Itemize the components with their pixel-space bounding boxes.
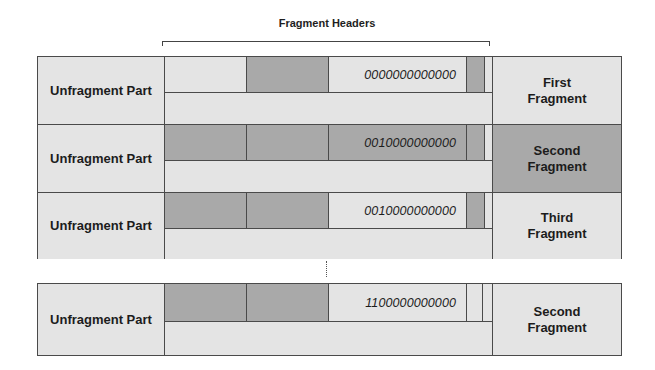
fragment-payload-strip [164, 161, 492, 192]
fragment-offset-field: 0010000000000 [328, 125, 466, 161]
unfragment-part-cell: Unfragment Part [38, 193, 164, 259]
fragment-row-second: Unfragment Part 0010000000000 Second Fra… [38, 124, 621, 192]
header-segment-4 [466, 193, 484, 229]
header-segment-1 [164, 193, 246, 229]
header-segment-2 [246, 193, 328, 229]
header-segment-5 [484, 193, 492, 229]
unfragment-part-cell: Unfragment Part [38, 284, 164, 355]
header-segment-2 [246, 284, 328, 322]
header-segment-1 [164, 57, 246, 93]
fragment-payload-strip [164, 93, 492, 124]
header-segment-5 [484, 125, 492, 161]
continuation-dots [326, 261, 327, 277]
header-segment-5 [484, 57, 492, 93]
fragment-headers-title: Fragment Headers [163, 17, 491, 29]
fragment-headers-bracket [162, 41, 490, 46]
fragment-row-third: Unfragment Part 0010000000000 Third Frag… [38, 192, 621, 259]
header-segment-2 [246, 125, 328, 161]
fragment-row-last: Unfragment Part 1100000000000 Second Fra… [37, 283, 622, 356]
fragment-payload-strip [164, 229, 492, 259]
fragment-offset-field: 1100000000000 [328, 284, 466, 322]
unfragment-part-cell: Unfragment Part [38, 125, 164, 192]
fragment-label-cell: Third Fragment [492, 193, 621, 259]
header-segment-1 [164, 125, 246, 161]
header-segment-4 [466, 57, 484, 93]
fragment-label-cell: First Fragment [492, 57, 621, 124]
fragment-label-cell: Second Fragment [492, 284, 621, 355]
fragment-row-first: Unfragment Part 0000000000000 First Frag… [38, 57, 621, 124]
fragment-offset-field: 0000000000000 [328, 57, 466, 93]
header-segment-4 [466, 125, 484, 161]
fragment-offset-field: 0010000000000 [328, 193, 466, 229]
fragment-payload-strip [164, 322, 492, 355]
header-segment-4 [466, 284, 482, 322]
header-segment-1 [164, 284, 246, 322]
fragment-label-cell: Second Fragment [492, 125, 621, 192]
header-segment-5 [482, 284, 492, 322]
unfragment-part-cell: Unfragment Part [38, 57, 164, 124]
header-segment-2 [246, 57, 328, 93]
fragment-group: Unfragment Part 0000000000000 First Frag… [37, 56, 622, 259]
